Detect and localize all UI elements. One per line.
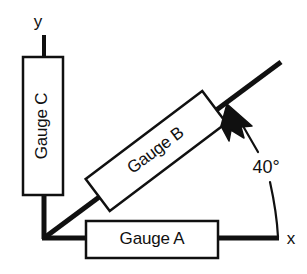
gauge-orientation-diagram: Gauge C Gauge B Gauge A 40° y x: [0, 0, 307, 274]
x-axis-label: x: [287, 229, 296, 248]
gauge-a-label: Gauge A: [120, 229, 186, 248]
y-axis-label: y: [34, 12, 43, 31]
angle-value-label: 40°: [252, 157, 279, 177]
gauge-c-label: Gauge C: [32, 93, 51, 160]
angle-arc-icon: [270, 182, 278, 237]
diagram-canvas: Gauge C Gauge B Gauge A 40° y x: [0, 0, 307, 274]
leader-line-icon: [243, 126, 258, 152]
